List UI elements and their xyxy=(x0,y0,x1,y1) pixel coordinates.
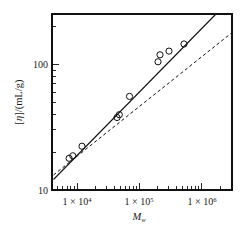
x-axis-ticks xyxy=(57,183,231,190)
x-tick-exponent: 6 xyxy=(213,196,217,203)
intrinsic-viscosity-scatter-plot: 100 10 1 × 104 1 × 105 1 × 106 Mw [η]/(m… xyxy=(0,0,250,229)
data-point xyxy=(157,52,163,58)
x-tick-mantissa: 1 × 10 xyxy=(125,196,151,207)
x-axis-title-subscript: w xyxy=(141,216,146,223)
x-tick-label-1e6: 1 × 106 xyxy=(188,196,218,207)
x-axis-title: Mw xyxy=(131,211,146,223)
svg-text:1 × 104: 1 × 104 xyxy=(63,196,93,207)
dashed-reference-line xyxy=(54,33,232,175)
x-tick-mantissa: 1 × 10 xyxy=(188,196,214,207)
solid-fit-line xyxy=(54,14,217,180)
x-tick-label-1e5: 1 × 105 xyxy=(125,196,155,207)
data-point xyxy=(79,143,85,149)
data-point-group xyxy=(66,41,187,161)
x-tick-mantissa: 1 × 10 xyxy=(63,196,89,207)
data-point xyxy=(166,48,172,54)
x-tick-exponent: 4 xyxy=(88,196,92,203)
y-axis-ticks xyxy=(52,26,59,190)
y-axis-title-close: ]/(mL/g) xyxy=(13,79,25,116)
x-tick-label-1e4: 1 × 104 xyxy=(63,196,93,207)
y-axis-title: [η]/(mL/g) xyxy=(13,79,25,124)
data-point xyxy=(126,93,132,99)
chart-figure: 100 10 1 × 104 1 × 105 1 × 106 Mw [η]/(m… xyxy=(0,0,250,229)
data-point xyxy=(155,59,161,65)
plot-frame xyxy=(52,14,232,190)
y-tick-label-100: 100 xyxy=(33,59,48,70)
x-tick-exponent: 5 xyxy=(150,196,154,203)
svg-text:1 × 106: 1 × 106 xyxy=(188,196,218,207)
svg-text:1 × 105: 1 × 105 xyxy=(125,196,155,207)
y-tick-label-10: 10 xyxy=(38,185,48,196)
